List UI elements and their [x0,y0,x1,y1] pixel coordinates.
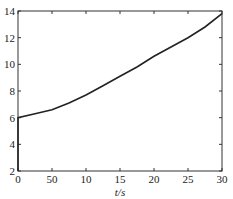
y-tick-label: 12 [4,32,15,44]
x-tick-label: 10 [81,173,93,185]
y-tick-label: 14 [4,5,16,17]
x-axis-label: t/s [115,186,125,198]
y-tick-label: 10 [4,58,16,70]
y-tick-label: 8 [10,85,16,97]
line-chart: 2468101214 0501015202530 t/s [0,0,233,199]
x-tick-label: 50 [47,173,59,185]
x-axis-ticks: 0501015202530 [15,11,228,185]
x-tick-label: 15 [115,173,127,185]
x-tick-label: 30 [217,173,229,185]
data-line [18,14,222,171]
y-tick-label: 6 [10,112,16,124]
x-tick-label: 0 [15,173,21,185]
x-tick-label: 25 [183,173,195,185]
y-axis-ticks: 2468101214 [4,5,222,177]
x-tick-label: 20 [149,173,161,185]
y-tick-label: 2 [10,165,16,177]
y-tick-label: 4 [10,138,16,150]
